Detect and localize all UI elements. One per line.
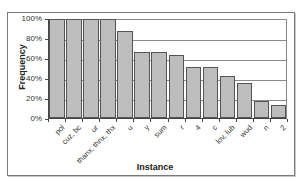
x-tick bbox=[133, 119, 134, 122]
x-tick bbox=[65, 119, 66, 122]
bar bbox=[134, 52, 150, 118]
x-tick bbox=[150, 119, 151, 122]
y-axis bbox=[48, 19, 49, 119]
x-tick bbox=[168, 119, 169, 122]
x-tick bbox=[219, 119, 220, 122]
plot-area bbox=[48, 19, 287, 119]
y-tick bbox=[45, 99, 49, 100]
x-tick bbox=[116, 119, 117, 122]
bar bbox=[220, 76, 236, 118]
bar bbox=[49, 19, 65, 118]
bar bbox=[117, 31, 133, 118]
bar bbox=[66, 19, 82, 118]
bar bbox=[151, 52, 167, 118]
bar bbox=[254, 101, 270, 118]
x-tick bbox=[253, 119, 254, 122]
x-tick bbox=[99, 119, 100, 122]
bar bbox=[203, 67, 219, 118]
x-tick bbox=[48, 119, 49, 122]
y-tick bbox=[45, 19, 49, 20]
y-tick bbox=[45, 39, 49, 40]
bar bbox=[100, 19, 116, 118]
y-tick-label: 100% bbox=[12, 14, 42, 23]
x-tick bbox=[287, 119, 288, 122]
x-tick bbox=[270, 119, 271, 122]
bar bbox=[83, 19, 99, 118]
bar bbox=[237, 83, 253, 118]
bar bbox=[271, 105, 287, 118]
bar bbox=[169, 55, 185, 118]
x-tick bbox=[185, 119, 186, 122]
y-axis-title: Frequency bbox=[17, 37, 27, 97]
x-tick bbox=[202, 119, 203, 122]
x-tick bbox=[82, 119, 83, 122]
y-tick bbox=[45, 59, 49, 60]
bar bbox=[186, 67, 202, 118]
x-tick bbox=[236, 119, 237, 122]
x-axis-title: Instance bbox=[130, 162, 180, 172]
y-tick-label: 0% bbox=[12, 114, 42, 123]
y-tick bbox=[45, 79, 49, 80]
